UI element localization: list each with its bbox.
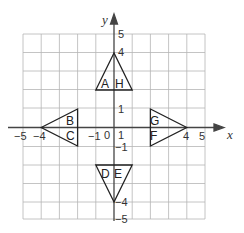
label-d: D [101, 167, 110, 181]
svg-text:5: 5 [118, 28, 124, 40]
svg-text:1: 1 [118, 103, 124, 115]
svg-text:1: 1 [118, 129, 124, 141]
svg-text:−1: −1 [88, 130, 101, 142]
label-a: A [101, 77, 109, 91]
svg-text:−5: −5 [14, 130, 27, 142]
svg-text:−4: −4 [33, 130, 46, 142]
x-tick-labels: −5 −4 −1 0 1 4 5 [14, 129, 205, 142]
label-f: F [150, 129, 157, 143]
label-c: C [66, 129, 75, 143]
label-g: G [150, 114, 159, 128]
label-b: B [66, 114, 74, 128]
y-axis-label: y [100, 12, 108, 27]
coordinate-grid: x y −5 −4 −1 0 1 4 5 5 4 1 −1 −4 −5 A H … [0, 0, 244, 233]
svg-text:−1: −1 [115, 141, 128, 153]
axes [8, 14, 224, 221]
label-h: H [115, 77, 124, 91]
svg-text:0: 0 [104, 129, 110, 141]
svg-text:5: 5 [199, 130, 205, 142]
x-axis-label: x [226, 127, 233, 142]
svg-text:−4: −4 [115, 196, 128, 208]
y-axis-arrow-icon [111, 14, 118, 24]
svg-text:4: 4 [183, 130, 189, 142]
x-axis-arrow-icon [214, 124, 224, 131]
svg-text:4: 4 [118, 46, 124, 58]
svg-text:−5: −5 [115, 213, 128, 225]
label-e: E [114, 167, 122, 181]
